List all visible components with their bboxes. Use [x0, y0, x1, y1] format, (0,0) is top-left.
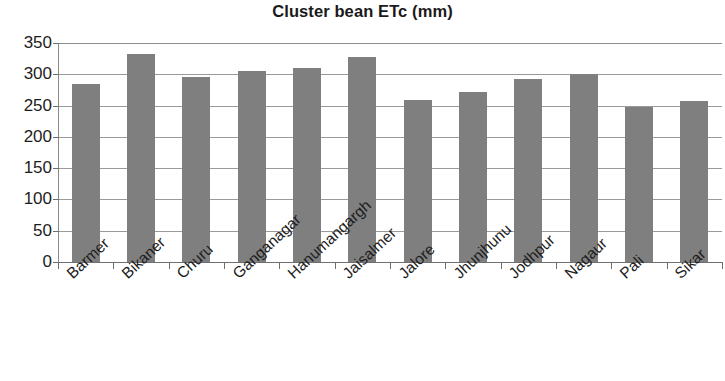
x-axis-label-group: BarmerBikanerChuruGanganagarHanumangargh… [0, 262, 725, 381]
bar-slot [169, 43, 224, 262]
bar [570, 74, 598, 262]
chart-title: Cluster bean ETc (mm) [0, 2, 725, 21]
y-axis-tick-mark [53, 231, 59, 232]
y-axis-tick-label: 50 [6, 222, 52, 239]
y-axis-tick-label: 100 [6, 190, 52, 207]
y-axis-tick-label: 350 [6, 34, 52, 51]
bar [72, 84, 100, 262]
bar [293, 68, 321, 262]
y-axis-tick-mark [53, 74, 59, 75]
y-axis-tick-label: 300 [6, 65, 52, 82]
bar [238, 71, 266, 262]
y-axis-tick-label: 150 [6, 159, 52, 176]
y-axis-tick-mark [53, 199, 59, 200]
bar-slot [390, 43, 445, 262]
bar [404, 100, 432, 262]
y-axis-tick-label: 250 [6, 97, 52, 114]
bar-slot [611, 43, 666, 262]
y-axis-tick-mark [53, 137, 59, 138]
bar [348, 57, 376, 262]
bar-slot [667, 43, 722, 262]
bar [127, 54, 155, 262]
chart-container: Cluster bean ETc (mm) 050100150200250300… [0, 0, 725, 381]
y-axis-tick-label: 200 [6, 128, 52, 145]
bar [625, 107, 653, 262]
bar-slot [556, 43, 611, 262]
bar [514, 79, 542, 262]
y-axis-tick-mark [53, 106, 59, 107]
y-axis-tick-mark [53, 262, 59, 263]
y-axis-tick-mark [53, 168, 59, 169]
bar [459, 92, 487, 262]
y-axis-label-group: 050100150200250300350 [0, 43, 52, 263]
bar-slot [113, 43, 168, 262]
bar [680, 101, 708, 262]
bar [182, 77, 210, 262]
bar-slot [58, 43, 113, 262]
y-axis-tick-mark [53, 43, 59, 44]
